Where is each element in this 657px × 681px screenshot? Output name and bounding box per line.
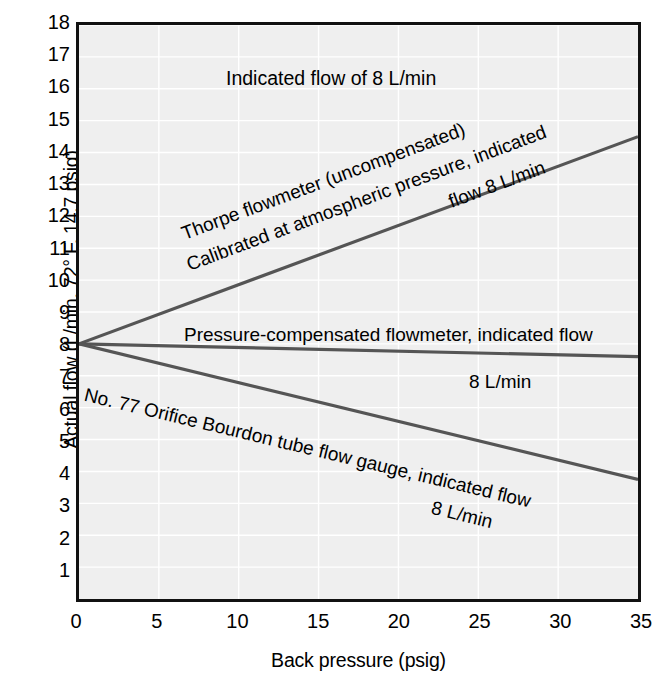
x-tick-label-10: 10 xyxy=(226,611,248,631)
x-axis-title: Back pressure (psig) xyxy=(76,649,641,672)
data-series-lines xyxy=(79,137,638,480)
flow-vs-back-pressure-chart: Actual flow (L/min, 72° F, 14.7 psig) 18… xyxy=(0,0,657,681)
x-tick-label-20: 20 xyxy=(388,611,410,631)
annotation-indicated-flow-title: Indicated flow of 8 L/min xyxy=(226,68,436,89)
annotation-pc-flow-value: 8 L/min xyxy=(469,372,531,393)
x-tick-label-5: 5 xyxy=(151,611,162,631)
x-tick-label-35: 35 xyxy=(630,611,652,631)
data-line-1 xyxy=(79,344,638,357)
x-tick-label-30: 30 xyxy=(549,611,571,631)
x-tick-label-25: 25 xyxy=(468,611,490,631)
plot-area: Indicated flow of 8 L/min Thorpe flowmet… xyxy=(76,22,641,602)
annotation-pressure-compensated: Pressure-compensated flowmeter, indicate… xyxy=(184,325,593,346)
x-tick-label-0: 0 xyxy=(70,611,81,631)
x-tick-label-15: 15 xyxy=(307,611,329,631)
plot-canvas xyxy=(79,25,638,599)
